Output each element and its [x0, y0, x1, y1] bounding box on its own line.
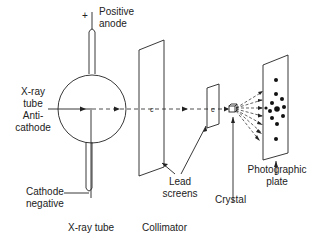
- xray-tube-anticathode-label: X-ray tube Anti- cathode: [14, 86, 52, 134]
- crystal: [229, 104, 237, 112]
- lead-screens-label: Lead screens: [160, 176, 200, 200]
- xray-tube-line2: tube: [14, 98, 52, 110]
- xray-tube-caption: X-ray tube: [68, 222, 114, 234]
- cathode-line1: Cathode: [26, 186, 64, 198]
- cathode-stem: [86, 110, 92, 198]
- photographic-plate-label: Photographic plate: [246, 164, 308, 188]
- diffraction-spots: [264, 78, 286, 141]
- photographic-plate-line1: Photographic: [246, 164, 308, 176]
- crystal-label: Crystal: [215, 194, 246, 206]
- beam-marker-c-1: c: [150, 106, 154, 113]
- lead-screens-line1: Lead: [160, 176, 200, 188]
- anticathode-line1: Anti-: [14, 110, 52, 122]
- lead-screens-line2: screens: [160, 188, 200, 200]
- diffracted-ray-arrows: [255, 91, 263, 141]
- beam-marker-c-2: c: [211, 106, 215, 113]
- beam-arrows: [80, 107, 278, 168]
- positive-anode-line2: anode: [99, 18, 134, 30]
- anode-stem: [89, 12, 95, 74]
- collimator-caption: Collimator: [142, 222, 187, 234]
- cathode-line2: negative: [26, 198, 64, 210]
- positive-anode-label: Positive anode: [99, 6, 134, 30]
- positive-anode-line1: Positive: [99, 6, 134, 18]
- plus-sign: +: [82, 10, 88, 22]
- photographic-plate-line2: plate: [246, 176, 308, 188]
- anticathode-line2: cathode: [14, 122, 52, 134]
- xray-tube-line1: X-ray: [14, 86, 52, 98]
- cathode-negative-label: Cathode negative: [26, 186, 64, 210]
- xray-diffraction-diagram: c c + Positive anode X-ray tube Anti- ca…: [0, 0, 323, 236]
